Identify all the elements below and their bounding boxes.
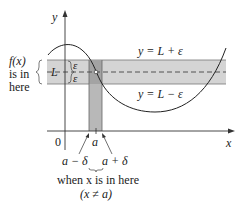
bottom-note-line1: when x is in here bbox=[57, 173, 139, 187]
under-brace bbox=[89, 168, 103, 172]
a-label: a bbox=[92, 135, 98, 149]
hole-point bbox=[94, 70, 98, 74]
epsilon-lower-label: ε bbox=[73, 72, 78, 84]
left-delta-arrow bbox=[79, 135, 88, 154]
x-axis-label: x bbox=[225, 136, 232, 150]
left-note-line1: f(x) bbox=[9, 54, 26, 68]
y-axis-arrow-icon bbox=[63, 10, 68, 17]
left-delta-arrowhead-icon bbox=[86, 133, 90, 138]
a-plus-delta-label: a + δ bbox=[102, 154, 128, 168]
epsilon-upper-label: ε bbox=[73, 59, 78, 71]
right-delta-arrow bbox=[103, 135, 112, 154]
left-note-line2: is in bbox=[9, 67, 29, 81]
left-note-line3: here bbox=[9, 80, 30, 94]
left-brace bbox=[36, 60, 42, 84]
lower-bound-label: y = L − ε bbox=[137, 87, 183, 101]
upper-bound-label: y = L + ε bbox=[137, 44, 183, 58]
limit-label: L bbox=[50, 65, 58, 79]
epsilon-delta-diagram: y x 0 L ε ε y = L + ε y = L − ε a a − δ … bbox=[0, 0, 242, 213]
a-minus-delta-label: a − δ bbox=[62, 154, 88, 168]
bottom-note-line2: (x ≠ a) bbox=[80, 187, 112, 201]
right-delta-arrowhead-icon bbox=[102, 133, 106, 138]
y-axis-label: y bbox=[51, 10, 58, 24]
x-axis-arrow-icon bbox=[228, 129, 235, 134]
origin-label: 0 bbox=[55, 135, 61, 149]
